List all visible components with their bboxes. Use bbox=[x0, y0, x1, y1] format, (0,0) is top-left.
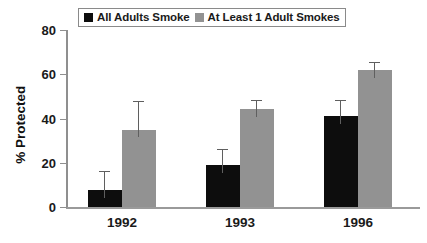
y-tick-0 bbox=[60, 207, 67, 208]
errorbar-stem-1993-at-least-1-adult-smokes bbox=[256, 100, 257, 117]
errorbar-cap-1992-all-adults-smoke bbox=[99, 171, 110, 172]
x-tick-label-1996: 1996 bbox=[328, 216, 388, 230]
errorbar-cap-1992-at-least-1-adult-smokes bbox=[133, 101, 144, 102]
y-tick-60 bbox=[60, 74, 67, 75]
errorbar-stem-1993-all-adults-smoke bbox=[222, 149, 223, 173]
bar-1996-all-adults-smoke bbox=[324, 116, 358, 207]
bar-1993-all-adults-smoke bbox=[206, 165, 240, 207]
errorbar-cap-1996-all-adults-smoke bbox=[335, 100, 346, 101]
bar-1992-all-adults-smoke bbox=[88, 190, 122, 207]
bar-1996-at-least-1-adult-smokes bbox=[358, 70, 392, 207]
y-tick-label-0: 0 bbox=[28, 201, 56, 214]
errorbar-stem-1996-all-adults-smoke bbox=[340, 100, 341, 124]
y-axis-title: % Protected bbox=[14, 70, 28, 180]
errorbar-stem-1992-all-adults-smoke bbox=[104, 171, 105, 198]
bar-1992-at-least-1-adult-smokes bbox=[122, 130, 156, 207]
errorbar-cap-1996-at-least-1-adult-smokes bbox=[369, 62, 380, 63]
x-tick-label-1993: 1993 bbox=[210, 216, 270, 230]
y-tick-label-80: 80 bbox=[28, 24, 56, 37]
y-tick-80 bbox=[60, 30, 67, 31]
y-tick-20 bbox=[60, 163, 67, 164]
bar-1993-at-least-1-adult-smokes bbox=[240, 109, 274, 207]
y-tick-label-20: 20 bbox=[28, 157, 56, 170]
bar-chart: All Adults Smoke At Least 1 Adult Smokes… bbox=[0, 0, 427, 243]
y-tick-40 bbox=[60, 119, 67, 120]
errorbar-stem-1992-at-least-1-adult-smokes bbox=[138, 101, 139, 137]
plot-area: 80 60 40 20 0 % Protected 1992 bbox=[0, 0, 427, 243]
errorbar-stem-1996-at-least-1-adult-smokes bbox=[374, 62, 375, 78]
x-tick-label-1992: 1992 bbox=[92, 216, 152, 230]
errorbar-cap-1993-all-adults-smoke bbox=[217, 149, 228, 150]
x-axis-line bbox=[66, 207, 420, 209]
y-tick-label-40: 40 bbox=[28, 113, 56, 126]
y-tick-label-60: 60 bbox=[28, 68, 56, 81]
errorbar-cap-1993-at-least-1-adult-smokes bbox=[251, 100, 262, 101]
